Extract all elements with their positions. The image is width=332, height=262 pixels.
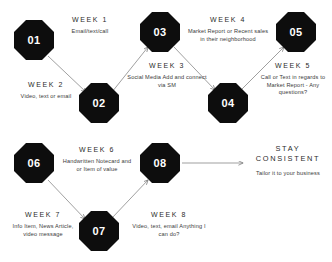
stay-consistent-title: STAY CONSISTENT xyxy=(250,144,326,164)
flow-node-07-label: 07 xyxy=(92,226,105,237)
week-5-title: WEEK 5 xyxy=(258,61,328,70)
week-1-desc: Email/text/call xyxy=(58,28,122,35)
step-label-week-5: WEEK 5 Call or Text in regards to Market… xyxy=(258,61,328,96)
stay-consistent-callout: STAY CONSISTENT Tailor it to your busine… xyxy=(250,144,326,178)
flow-node-08-label: 08 xyxy=(153,158,166,169)
flow-node-05[interactable]: 05 xyxy=(276,12,316,52)
flow-node-03-label: 03 xyxy=(153,27,166,38)
week-3-title: WEEK 3 xyxy=(126,61,208,70)
step-label-week-1: WEEK 1 Email/text/call xyxy=(58,15,122,36)
flow-node-04[interactable]: 04 xyxy=(208,83,248,123)
week-6-desc: Handwritten Notecard and or Item of valu… xyxy=(62,158,132,173)
flow-node-03[interactable]: 03 xyxy=(140,12,180,52)
step-label-week-6: WEEK 6 Handwritten Notecard and or Item … xyxy=(62,145,132,173)
step-label-week-3: WEEK 3 Social Media Add and connect via … xyxy=(126,61,208,89)
week-1-title: WEEK 1 xyxy=(58,15,122,24)
stay-consistent-subtitle: Tailor it to your business xyxy=(250,170,326,178)
flow-node-06[interactable]: 06 xyxy=(14,143,54,183)
flow-node-05-label: 05 xyxy=(289,27,302,38)
flow-node-07[interactable]: 07 xyxy=(79,211,119,251)
flow-node-01[interactable]: 01 xyxy=(14,20,54,60)
week-5-desc: Call or Text in regards to Market Report… xyxy=(258,74,328,96)
step-label-week-4: WEEK 4 Market Report or Recent sales in … xyxy=(186,15,270,43)
week-2-title: WEEK 2 xyxy=(8,80,84,89)
week-4-title: WEEK 4 xyxy=(186,15,270,24)
week-8-desc: Video, text, email Anything I can do? xyxy=(130,223,208,238)
flow-node-06-label: 06 xyxy=(27,158,40,169)
week-7-title: WEEK 7 xyxy=(6,210,80,219)
week-3-desc: Social Media Add and connect via SM xyxy=(126,74,208,89)
flow-node-02[interactable]: 02 xyxy=(79,83,119,123)
flow-node-08[interactable]: 08 xyxy=(140,143,180,183)
week-7-desc: Info Item, News Article, video message xyxy=(6,223,80,238)
diagram-canvas: 01 02 03 04 05 06 07 08 WEEK 1 Email/tex… xyxy=(0,0,332,262)
step-label-week-7: WEEK 7 Info Item, News Article, video me… xyxy=(6,210,80,238)
flow-node-01-label: 01 xyxy=(27,35,40,46)
flow-node-02-label: 02 xyxy=(92,98,105,109)
week-2-desc: Video, text or email xyxy=(8,93,84,100)
week-4-desc: Market Report or Recent sales in their n… xyxy=(186,28,270,43)
step-label-week-2: WEEK 2 Video, text or email xyxy=(8,80,84,101)
week-6-title: WEEK 6 xyxy=(62,145,132,154)
week-8-title: WEEK 8 xyxy=(130,210,208,219)
flow-node-04-label: 04 xyxy=(221,98,234,109)
step-label-week-8: WEEK 8 Video, text, email Anything I can… xyxy=(130,210,208,238)
